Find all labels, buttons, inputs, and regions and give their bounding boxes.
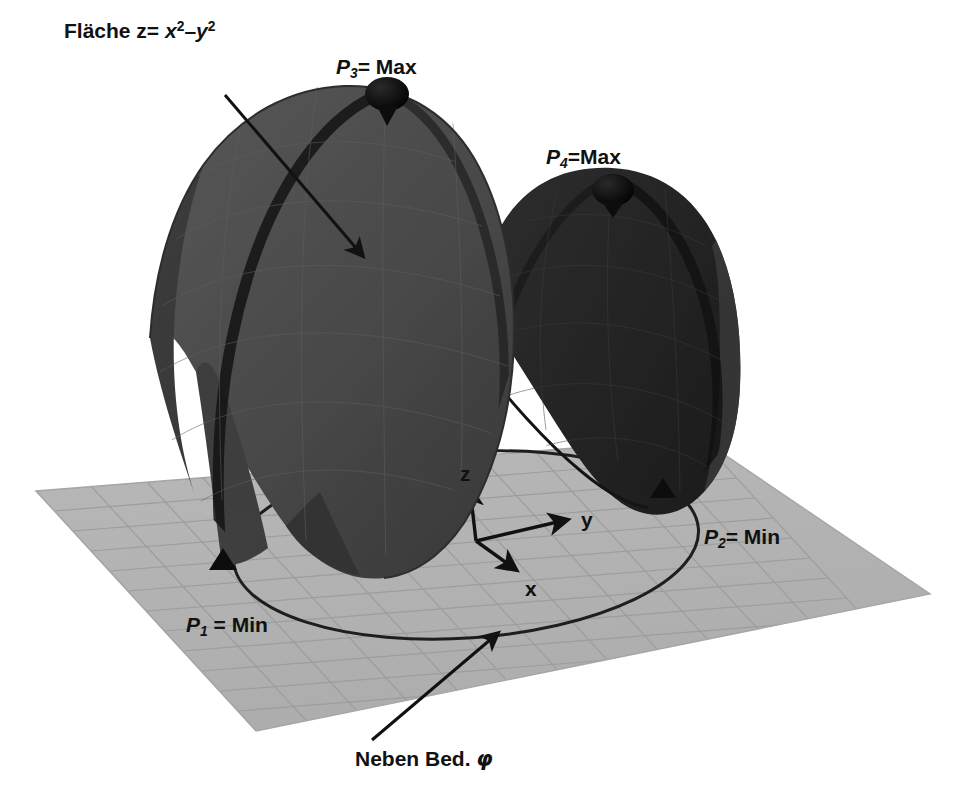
- surface-term2-base: y: [196, 19, 208, 42]
- surface-label-prefix: Fläche z=: [64, 19, 165, 42]
- constraint-text: Neben Bed.: [355, 747, 476, 770]
- p3-index: 3: [350, 65, 358, 81]
- surface-term2-exponent: 2: [208, 18, 216, 34]
- p4-relation: =: [568, 145, 580, 168]
- axis-label-x: x: [525, 578, 537, 599]
- p2-relation: =: [726, 525, 744, 548]
- marker-p3-sphere: [365, 77, 409, 111]
- p4-index: 4: [560, 155, 568, 171]
- p4-value: Max: [580, 145, 621, 168]
- p4-name: P: [546, 145, 560, 168]
- p1-name: P: [186, 613, 200, 636]
- surface-plot-svg: [0, 0, 960, 809]
- surface-minus-sign: –: [184, 19, 196, 42]
- label-constraint: Neben Bed. φ: [355, 748, 493, 770]
- phi-symbol: φ: [476, 747, 492, 771]
- axis-label-y: y: [581, 509, 593, 530]
- label-surface-equation: Fläche z= x2–y2: [64, 20, 215, 41]
- p1-relation: =: [208, 613, 232, 636]
- p2-value: Min: [744, 525, 780, 548]
- p3-value: Max: [376, 55, 417, 78]
- p1-index: 1: [200, 623, 208, 639]
- p1-value: Min: [232, 613, 268, 636]
- p2-name: P: [704, 525, 718, 548]
- p2-index: 2: [718, 535, 726, 551]
- label-p4: P4=Max: [546, 146, 621, 171]
- label-p3: P3= Max: [336, 56, 417, 81]
- figure-canvas: Fläche z= x2–y2 P3= Max P4=Max P2= Min P…: [0, 0, 960, 809]
- label-p1: P1 = Min: [186, 614, 268, 639]
- axis-label-z: z: [460, 463, 471, 484]
- p3-name: P: [336, 55, 350, 78]
- label-p2: P2= Min: [704, 526, 780, 551]
- p3-relation: =: [358, 55, 376, 78]
- surface-term1-base: x: [165, 19, 177, 42]
